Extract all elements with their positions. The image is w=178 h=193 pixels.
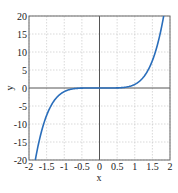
y-tick-label: 10: [17, 47, 27, 58]
y-tick-label: -10: [14, 119, 27, 130]
y-tick-labels: 20151050-5-10-15-20: [14, 11, 27, 166]
x-tick-label: 1: [132, 161, 137, 172]
y-tick-label: 0: [22, 83, 27, 94]
x-tick-labels: -2-1.5-1-0.500.511.52: [25, 161, 173, 172]
x-tick-label: -0.5: [74, 161, 90, 172]
x-tick-label: 0.5: [111, 161, 124, 172]
line-chart: -2-1.5-1-0.500.511.52 20151050-5-10-15-2…: [0, 0, 178, 193]
x-tick-label: 2: [168, 161, 173, 172]
y-tick-label: 15: [17, 29, 27, 40]
x-tick-label: 1.5: [146, 161, 159, 172]
y-tick-label: -5: [19, 101, 27, 112]
y-tick-label: -20: [14, 155, 27, 166]
x-tick-label: -1.5: [39, 161, 55, 172]
x-axis-label: x: [97, 172, 102, 183]
x-tick-label: 0: [97, 161, 102, 172]
y-tick-label: 20: [17, 11, 27, 22]
x-tick-label: -1: [60, 161, 68, 172]
y-tick-label: -15: [14, 137, 27, 148]
y-axis-label: y: [4, 86, 15, 91]
y-tick-label: 5: [22, 65, 27, 76]
